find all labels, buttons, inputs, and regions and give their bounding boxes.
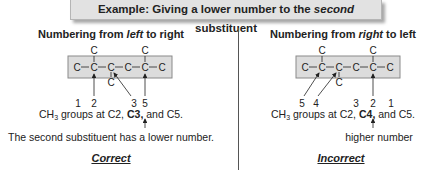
chain-atom-5: C [318, 62, 325, 73]
chain-atom-5: C [141, 62, 148, 73]
chain-atom-3: C [352, 62, 359, 73]
chain-atom-3: C [107, 62, 114, 73]
right-groups-caption: CH3 groups at C2, C4, and C5. [232, 108, 444, 121]
chain-atom-2: C [90, 62, 97, 73]
right-structure-diagram: C C C C C C C C C 5 4 3 2 1 [222, 0, 444, 170]
sub-top-c2: C [90, 45, 97, 56]
left-verdict-correct: Correct [0, 152, 222, 164]
chain-atom-4: C [335, 62, 342, 73]
left-structure-diagram: C C C C C C C C C 1 2 3 5 [0, 0, 222, 170]
right-verdict-incorrect: Incorrect [230, 152, 444, 164]
sub-bottom-c4: C [335, 77, 342, 88]
right-panel-numbering-right-to-left: Numbering from right to left C C C C C C… [222, 0, 444, 170]
groups-bold: C4, [359, 108, 375, 120]
chain-atom-1: C [386, 62, 393, 73]
groups-suffix: and C5. [143, 108, 183, 120]
sub-top-c5: C [318, 45, 325, 56]
groups-bold: C3, [127, 108, 143, 120]
sub-top-c2: C [369, 45, 376, 56]
chain-atom-1: C [73, 62, 80, 73]
left-groups-caption: CH3 groups at C2, C3, and C5. [0, 108, 222, 121]
ch-text: CH [271, 108, 286, 120]
sub-bottom-c3: C [107, 77, 114, 88]
sub-top-c5: C [141, 45, 148, 56]
groups-suffix: and C5. [375, 108, 415, 120]
groups-mid: groups at C2, [290, 108, 359, 120]
right-note: higher number [268, 131, 444, 143]
chain-atom-2: C [369, 62, 376, 73]
chain-atom-4: C [124, 62, 131, 73]
groups-mid: groups at C2, [58, 108, 127, 120]
ch-text: CH [39, 108, 54, 120]
chain-atom-6: C [301, 62, 308, 73]
left-note: The second substituent has a lower numbe… [0, 131, 222, 143]
chain-atom-6: C [158, 62, 165, 73]
left-panel-numbering-left-to-right: Numbering from left to right C C C C C C… [0, 0, 222, 170]
